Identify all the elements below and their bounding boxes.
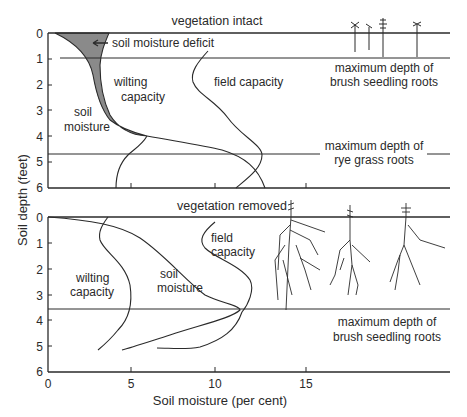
svg-text:0: 0: [45, 377, 52, 391]
svg-text:5: 5: [128, 377, 135, 391]
svg-text:soil: soil: [74, 105, 92, 119]
svg-text:15: 15: [299, 377, 313, 391]
svg-text:1: 1: [36, 52, 43, 66]
top-wilting-capacity-curve: [116, 136, 147, 188]
top-y-ticks: 0 1 2 3 4 5 6: [36, 27, 43, 195]
svg-text:0: 0: [36, 27, 43, 41]
seedling-icons: [351, 18, 421, 57]
svg-text:10: 10: [208, 377, 222, 391]
svg-text:6: 6: [36, 181, 43, 195]
svg-text:brush seedling roots: brush seedling roots: [330, 75, 438, 89]
svg-text:3: 3: [36, 104, 43, 118]
svg-text:0: 0: [36, 211, 43, 225]
svg-text:moisture: moisture: [157, 281, 203, 295]
top-field-capacity-curve: [192, 51, 262, 188]
svg-text:field capacity: field capacity: [214, 75, 283, 89]
top-panel-title: vegetation intact: [171, 14, 263, 28]
svg-text:soil moisture deficit: soil moisture deficit: [112, 36, 215, 50]
svg-text:6: 6: [36, 365, 43, 379]
svg-text:rye grass roots: rye grass roots: [334, 153, 413, 167]
svg-text:maximum depth of: maximum depth of: [325, 139, 424, 153]
top-soil-moisture-curve: [147, 136, 265, 188]
bottom-panel-title: vegetation removed: [177, 199, 287, 213]
y-axis-title: Soil depth (feet): [15, 154, 30, 246]
svg-text:brush seedling roots: brush seedling roots: [333, 330, 441, 344]
svg-text:capacity: capacity: [70, 285, 114, 299]
svg-text:capacity: capacity: [121, 90, 165, 104]
soil-moisture-figure: Soil depth (feet) vegetation intact 0 1 …: [0, 0, 467, 417]
svg-text:wilting: wilting: [75, 271, 109, 285]
svg-text:5: 5: [36, 155, 43, 169]
svg-text:maximum depth of: maximum depth of: [335, 61, 434, 75]
x-ticks: 0 5 10 15: [45, 377, 313, 391]
bottom-y-ticks: 0 1 2 3 4 5 6: [36, 211, 43, 379]
svg-text:maximum depth of: maximum depth of: [338, 315, 437, 329]
svg-text:1: 1: [36, 237, 43, 251]
svg-text:3: 3: [36, 289, 43, 303]
bottom-panel: vegetation removed 0 1 2 3 4 5 6 wilting…: [36, 199, 450, 379]
svg-text:soil: soil: [160, 267, 178, 281]
svg-text:4: 4: [36, 314, 43, 328]
svg-text:5: 5: [36, 340, 43, 354]
x-axis-title: Soil moisture (per cent): [153, 393, 287, 408]
svg-text:wilting: wilting: [113, 75, 147, 89]
svg-text:4: 4: [36, 130, 43, 144]
top-panel: vegetation intact 0 1 2 3 4 5 6: [36, 14, 450, 195]
svg-text:2: 2: [36, 78, 43, 92]
svg-text:field: field: [211, 231, 233, 245]
svg-text:2: 2: [36, 263, 43, 277]
svg-text:moisture: moisture: [64, 120, 110, 134]
svg-text:capacity: capacity: [211, 245, 255, 259]
